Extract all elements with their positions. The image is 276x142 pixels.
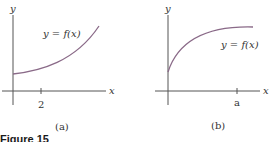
panel-b-tick-label: a bbox=[234, 97, 240, 108]
figure-title: Figure 15 bbox=[0, 133, 49, 142]
panel-a: y x 2 y = f(x) (a) bbox=[2, 3, 115, 132]
panel-a-x-axis-label: x bbox=[109, 85, 115, 96]
panel-b-y-axis-label: y bbox=[164, 3, 171, 14]
figure-15: y x 2 y = f(x) (a) y x a y = f(x) (b) Fi… bbox=[0, 0, 276, 142]
panel-b-x-axis-label: x bbox=[263, 85, 269, 96]
panel-a-y-axis-label: y bbox=[9, 3, 16, 14]
panel-b-caption: (b) bbox=[211, 120, 225, 131]
panel-b: y x a y = f(x) (b) bbox=[155, 3, 269, 131]
panel-a-caption: (a) bbox=[55, 121, 69, 132]
panel-a-tick-label: 2 bbox=[38, 99, 44, 110]
panel-a-curve-label: y = f(x) bbox=[42, 28, 81, 39]
panel-b-curve-label: y = f(x) bbox=[220, 39, 259, 50]
